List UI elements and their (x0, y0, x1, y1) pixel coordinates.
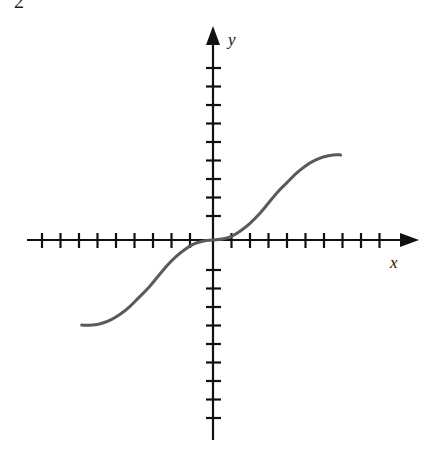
y-axis-label: y (226, 30, 236, 49)
x-axis-arrow-icon (400, 233, 419, 247)
y-axis-group (206, 26, 221, 440)
y-axis-arrow-icon (206, 26, 220, 45)
graph-canvas: x y (0, 0, 429, 455)
figure-root: 2 (0, 0, 429, 455)
x-axis-label: x (389, 253, 398, 272)
x-axis-group (27, 233, 419, 248)
